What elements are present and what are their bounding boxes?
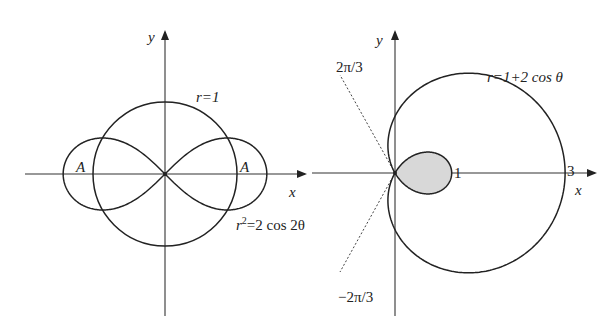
- left-origin-point: [163, 172, 167, 176]
- right-origin-point: [393, 171, 397, 175]
- region-label-left: A: [75, 159, 86, 175]
- left-x-axis-label: x: [288, 184, 296, 200]
- right-x-axis-label: x: [574, 182, 582, 198]
- lemniscate-equation-label: r2=2 cos 2θ: [236, 215, 305, 233]
- polar-curves-figure: y x A A r=1 r2=2 cos 2θ y x 1 3 2π/3 −2π…: [0, 0, 612, 332]
- circle-equation-label: r=1: [196, 89, 219, 105]
- region-label-right: A: [239, 159, 250, 175]
- ray-2pi-over-3: [340, 75, 395, 173]
- angle-label-upper: 2π/3: [336, 59, 363, 75]
- right-diagram: y x 1 3 2π/3 −2π/3 r=1+2 cos θ: [312, 32, 595, 316]
- angle-label-lower: −2π/3: [338, 289, 373, 305]
- ray-minus-2pi-over-3: [340, 173, 395, 272]
- right-y-axis-label: y: [374, 32, 383, 48]
- inner-loop-shaded-region: [395, 152, 452, 194]
- left-diagram: y x A A r=1 r2=2 cos 2θ: [25, 29, 305, 316]
- tick-label-3: 3: [567, 163, 575, 179]
- limacon-equation-label: r=1+2 cos θ: [487, 69, 564, 85]
- tick-label-1: 1: [454, 165, 462, 181]
- left-y-axis-label: y: [146, 29, 155, 45]
